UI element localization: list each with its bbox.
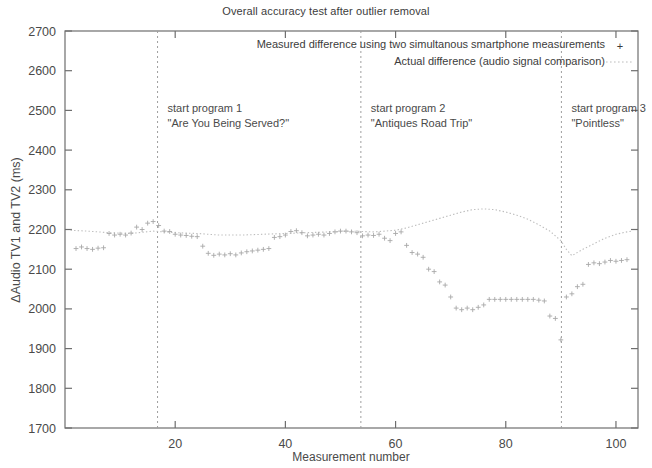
annotation-subtitle-1: "Are You Being Served?" xyxy=(168,117,290,129)
annotation-title-1: start program 1 xyxy=(168,102,243,114)
data-point xyxy=(195,234,200,239)
annotation-title-2: start program 2 xyxy=(371,102,446,114)
data-point xyxy=(459,307,464,312)
y-tick-label: 2100 xyxy=(28,263,56,277)
chart-canvas: 1700180019002000210022002300240025002600… xyxy=(0,0,652,468)
y-tick-label: 1900 xyxy=(28,342,56,356)
data-point xyxy=(156,223,161,228)
data-point xyxy=(300,230,305,235)
data-point xyxy=(333,229,338,234)
data-point xyxy=(465,306,470,311)
data-point xyxy=(503,297,508,302)
data-point xyxy=(322,233,327,238)
data-point xyxy=(96,246,101,251)
y-tick-label: 1700 xyxy=(28,422,56,436)
data-point xyxy=(349,229,354,234)
series-measured-difference xyxy=(74,219,630,342)
data-point xyxy=(371,233,376,238)
data-point xyxy=(470,307,475,312)
data-point xyxy=(184,233,189,238)
y-tick-label: 2200 xyxy=(28,223,56,237)
x-tick-label: 40 xyxy=(278,437,292,451)
data-point xyxy=(217,252,222,257)
y-tick-label: 2600 xyxy=(28,64,56,78)
data-point xyxy=(90,247,95,252)
data-point xyxy=(437,280,442,285)
data-point xyxy=(509,297,514,302)
data-point xyxy=(410,250,415,255)
data-point xyxy=(476,305,481,310)
data-point xyxy=(123,233,128,238)
data-point xyxy=(222,253,227,258)
x-axis-title: Measurement number xyxy=(292,450,409,464)
data-point xyxy=(244,249,249,254)
data-point xyxy=(134,225,139,230)
data-point xyxy=(592,260,597,265)
data-point xyxy=(200,244,205,249)
data-point xyxy=(498,297,503,302)
data-point xyxy=(603,260,608,265)
legend-item-actual-label: Actual difference (audio signal comparis… xyxy=(394,55,605,67)
data-point xyxy=(492,297,497,302)
data-point xyxy=(586,262,591,267)
data-point xyxy=(211,253,216,258)
data-point xyxy=(625,257,630,262)
y-tick-label: 2300 xyxy=(28,183,56,197)
data-point xyxy=(569,291,574,296)
data-point xyxy=(542,299,547,304)
data-point xyxy=(547,314,552,319)
data-point xyxy=(520,297,525,302)
y-tick-label: 2000 xyxy=(28,302,56,316)
data-point xyxy=(311,233,316,238)
data-point xyxy=(366,233,371,238)
data-point xyxy=(101,245,106,250)
chart-root: Overall accuracy test after outlier remo… xyxy=(0,0,652,468)
data-point xyxy=(250,249,255,254)
data-point xyxy=(426,267,431,272)
data-point xyxy=(189,234,194,239)
data-point xyxy=(404,243,409,248)
data-point xyxy=(421,255,426,260)
data-point xyxy=(277,234,282,239)
data-point xyxy=(531,297,536,302)
data-point xyxy=(266,246,271,251)
data-point xyxy=(448,295,453,300)
x-tick-label: 80 xyxy=(499,437,513,451)
data-point xyxy=(619,258,624,263)
data-point xyxy=(327,231,332,236)
data-point xyxy=(377,232,382,237)
data-point xyxy=(173,232,178,237)
data-point xyxy=(305,233,310,238)
data-point xyxy=(167,229,172,234)
data-point xyxy=(514,297,519,302)
annotation-subtitle-3: "Pointless" xyxy=(571,117,624,129)
data-point xyxy=(581,282,586,287)
data-point xyxy=(382,236,387,241)
program-marker-lines xyxy=(158,31,562,428)
data-point xyxy=(145,221,150,226)
x-tick-label: 100 xyxy=(606,437,627,451)
data-point xyxy=(272,235,277,240)
data-point xyxy=(74,246,79,251)
data-point xyxy=(79,245,84,250)
data-point xyxy=(553,316,558,321)
data-point xyxy=(338,229,343,234)
data-point xyxy=(558,337,563,342)
data-point xyxy=(261,247,266,252)
annotation-title-3: start program 3 xyxy=(571,102,646,114)
data-point xyxy=(388,238,393,243)
data-point xyxy=(255,248,260,253)
data-point xyxy=(415,252,420,257)
data-point xyxy=(288,229,293,234)
data-point xyxy=(344,229,349,234)
data-point xyxy=(85,246,90,251)
y-axis-title: ΔAudio TV1 and TV2 (ms) xyxy=(9,157,23,302)
legend-item-measured-label: Measured difference using two simultanou… xyxy=(257,38,606,50)
data-point xyxy=(575,284,580,289)
data-point xyxy=(112,233,117,238)
data-point xyxy=(228,251,233,256)
data-point xyxy=(206,251,211,256)
data-point xyxy=(316,232,321,237)
data-point xyxy=(487,297,492,302)
data-point xyxy=(393,231,398,236)
